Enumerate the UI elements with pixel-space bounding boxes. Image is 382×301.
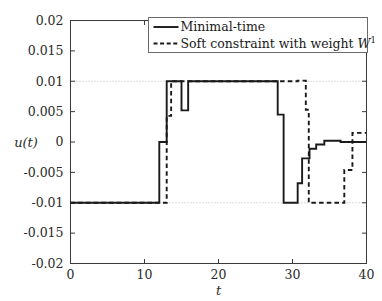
y-axis-title: u(t) (14, 135, 38, 150)
series-minimal-time (71, 81, 367, 203)
gridlines (71, 81, 367, 203)
axes-box (71, 21, 367, 264)
x-tick-label-4: 40 (359, 267, 375, 282)
y-tick-label-4: 0 (56, 134, 64, 149)
y-tick-label-5: -0.005 (23, 165, 63, 180)
figure-container: 0.020.0150.010.0050-0.005-0.01-0.015-0.0… (0, 0, 382, 301)
axis-ticks (71, 21, 367, 264)
chart-legend: Minimal-timeSoft constraint with weight … (149, 18, 376, 53)
data-series-group (71, 81, 367, 203)
y-tick-label-0: 0.02 (36, 13, 64, 28)
x-tick-label-2: 20 (211, 267, 227, 282)
y-tick-label-3: 0.005 (28, 104, 64, 119)
x-axis-tick-labels: 010203040 (67, 267, 375, 282)
series-soft-constraint (71, 81, 367, 203)
legend-label-0: Minimal-time (181, 19, 266, 34)
axis-titles: tu(t) (14, 135, 222, 298)
axes-frame (71, 21, 367, 264)
x-axis-title: t (216, 283, 222, 298)
y-tick-label-1: 0.015 (28, 43, 64, 58)
x-tick-label-0: 0 (67, 267, 75, 282)
y-tick-label-8: -0.02 (31, 256, 63, 271)
x-tick-label-3: 30 (285, 267, 301, 282)
y-tick-label-2: 0.01 (36, 74, 64, 89)
y-tick-label-7: -0.015 (23, 225, 63, 240)
x-tick-label-1: 10 (137, 267, 153, 282)
legend-label-1: Soft constraint with weight W1 (181, 34, 376, 50)
line-chart: 0.020.0150.010.0050-0.005-0.01-0.015-0.0… (0, 0, 382, 301)
y-tick-label-6: -0.01 (31, 195, 63, 210)
